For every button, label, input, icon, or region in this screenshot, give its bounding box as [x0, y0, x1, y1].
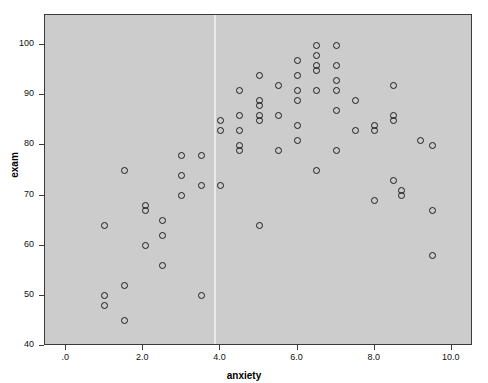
y-tick-mark: [39, 94, 44, 95]
data-point: [294, 87, 301, 94]
data-point: [390, 177, 397, 184]
data-point: [121, 167, 128, 174]
chart-title: [0, 0, 488, 12]
data-point: [256, 72, 263, 79]
y-tick-label: 60: [8, 240, 34, 249]
x-tick-mark: [219, 345, 220, 350]
data-point: [313, 42, 320, 49]
data-point: [398, 192, 405, 199]
data-point: [256, 222, 263, 229]
data-point: [101, 302, 108, 309]
data-point: [178, 152, 185, 159]
data-point: [236, 127, 243, 134]
data-point: [294, 122, 301, 129]
data-point: [429, 142, 436, 149]
data-point: [178, 172, 185, 179]
x-tick-label: 4.0: [199, 353, 239, 362]
data-point: [159, 232, 166, 239]
data-point: [236, 87, 243, 94]
x-tick-mark: [65, 345, 66, 350]
data-point: [256, 102, 263, 109]
data-point: [333, 42, 340, 49]
data-point: [371, 197, 378, 204]
data-point: [294, 72, 301, 79]
data-point: [390, 82, 397, 89]
x-tick-mark: [374, 345, 375, 350]
data-point: [178, 192, 185, 199]
data-point: [352, 97, 359, 104]
x-axis-label: anxiety: [0, 370, 488, 381]
data-point: [236, 112, 243, 119]
y-tick-label: 100: [8, 39, 34, 48]
data-point: [142, 207, 149, 214]
data-point: [313, 67, 320, 74]
data-point: [313, 52, 320, 59]
data-point: [275, 147, 282, 154]
x-tick-mark: [142, 345, 143, 350]
y-axis-label: exam: [9, 152, 20, 178]
data-point: [294, 137, 301, 144]
data-point: [198, 292, 205, 299]
data-point: [371, 127, 378, 134]
y-tick-label: 40: [8, 340, 34, 349]
data-point: [275, 112, 282, 119]
data-point: [333, 107, 340, 114]
data-point: [352, 127, 359, 134]
x-tick-label: 8.0: [354, 353, 394, 362]
data-point: [217, 182, 224, 189]
y-tick-label: 70: [8, 190, 34, 199]
data-point: [159, 262, 166, 269]
data-point: [101, 292, 108, 299]
data-point: [142, 242, 149, 249]
data-point: [333, 77, 340, 84]
data-point: [294, 57, 301, 64]
y-tick-label: 50: [8, 290, 34, 299]
x-tick-mark: [297, 345, 298, 350]
y-tick-mark: [39, 195, 44, 196]
data-point: [294, 97, 301, 104]
data-point: [217, 127, 224, 134]
y-tick-mark: [39, 44, 44, 45]
data-point: [256, 117, 263, 124]
reference-line: [214, 15, 216, 344]
data-point: [429, 207, 436, 214]
data-point: [429, 252, 436, 259]
x-tick-label: 10.0: [431, 353, 471, 362]
data-point: [217, 117, 224, 124]
data-point: [198, 182, 205, 189]
y-tick-mark: [39, 345, 44, 346]
plot-area: [44, 14, 472, 345]
data-point: [121, 282, 128, 289]
x-tick-label: 2.0: [122, 353, 162, 362]
data-point: [236, 147, 243, 154]
y-tick-mark: [39, 144, 44, 145]
scatter-plot-chart: 405060708090100 .02.04.06.08.010.0 exam …: [0, 0, 488, 383]
data-point: [313, 167, 320, 174]
data-point: [101, 222, 108, 229]
data-point: [417, 137, 424, 144]
data-point: [159, 217, 166, 224]
x-tick-label: .0: [45, 353, 85, 362]
x-tick-mark: [451, 345, 452, 350]
data-point: [333, 87, 340, 94]
y-tick-mark: [39, 245, 44, 246]
y-tick-label: 90: [8, 89, 34, 98]
data-point: [198, 152, 205, 159]
data-point: [333, 147, 340, 154]
y-tick-mark: [39, 295, 44, 296]
y-tick-label: 80: [8, 139, 34, 148]
data-point: [390, 117, 397, 124]
data-point: [313, 87, 320, 94]
data-point: [333, 62, 340, 69]
data-point: [121, 317, 128, 324]
data-point: [275, 82, 282, 89]
x-tick-label: 6.0: [277, 353, 317, 362]
